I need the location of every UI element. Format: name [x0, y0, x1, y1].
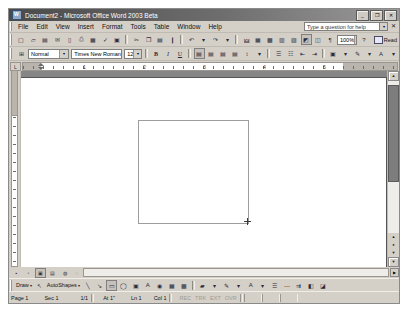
diagram-icon[interactable]: ◉: [154, 280, 165, 291]
menu-tools[interactable]: Tools: [127, 23, 150, 30]
paste-icon[interactable]: ▤: [155, 34, 166, 45]
permission-icon[interactable]: ▯: [64, 34, 75, 45]
document-map-icon[interactable]: ◩: [301, 34, 312, 45]
wordart-icon[interactable]: A: [142, 280, 153, 291]
status-indicator-rec[interactable]: REC: [173, 295, 193, 301]
styles-formatting-icon[interactable]: ⊞: [16, 48, 27, 59]
new-document-icon[interactable]: ▢: [16, 34, 27, 45]
columns-icon[interactable]: ▥: [277, 34, 288, 45]
font-size-select[interactable]: 12 ▾: [124, 49, 142, 59]
menu-window[interactable]: Window: [173, 23, 204, 30]
menu-insert[interactable]: Insert: [74, 23, 98, 30]
chevron-down-icon[interactable]: ▾: [354, 36, 357, 44]
insert-hyperlink-icon[interactable]: 🜲: [241, 34, 252, 45]
select-objects-icon[interactable]: ↖: [34, 280, 45, 291]
document-canvas[interactable]: [21, 71, 387, 267]
close-button[interactable]: ✕: [384, 10, 397, 21]
3d-style-icon[interactable]: ◪: [317, 280, 328, 291]
draw-menu-button[interactable]: Draw: [15, 282, 30, 288]
save-icon[interactable]: ▤: [40, 34, 51, 45]
show-formatting-marks-icon[interactable]: ◫: [313, 34, 324, 45]
status-indicator-trk[interactable]: TRK: [193, 295, 208, 301]
insert-excel-table-icon[interactable]: ▩: [265, 34, 276, 45]
decrease-indent-icon[interactable]: ⇤: [297, 48, 308, 59]
status-indicator-ovr[interactable]: OVR: [223, 295, 239, 301]
redo-icon[interactable]: ↷: [210, 34, 221, 45]
vertical-scroll-thumb[interactable]: [388, 85, 399, 182]
browse-previous-button[interactable]: ▲: [388, 233, 399, 241]
vertical-scroll-track[interactable]: [388, 81, 399, 233]
font-color-icon[interactable]: A: [245, 280, 256, 291]
browse-next-button[interactable]: ▼: [388, 249, 399, 257]
help-icon[interactable]: ?: [358, 34, 369, 45]
chevron-down-icon[interactable]: ▾: [133, 50, 142, 58]
line-spacing-dropdown-icon[interactable]: ▾: [254, 48, 265, 59]
hanging-indent-marker[interactable]: [38, 67, 44, 70]
drawn-rectangle-shape[interactable]: [138, 120, 250, 224]
reading-layout-view-button[interactable]: ◍: [59, 268, 70, 278]
thumbnail-view-button[interactable]: ◌: [71, 268, 82, 278]
menu-table[interactable]: Table: [150, 23, 174, 30]
line-color-icon[interactable]: ✎: [221, 280, 232, 291]
autoshapes-menu-button[interactable]: AutoShapes: [46, 282, 78, 288]
chevron-down-icon[interactable]: ▾: [30, 283, 32, 288]
cut-icon[interactable]: ✂: [131, 34, 142, 45]
open-icon[interactable]: ▱: [28, 34, 39, 45]
oval-icon[interactable]: ◯: [118, 280, 129, 291]
align-right-icon[interactable]: ▤: [218, 48, 229, 59]
status-indicator-ext[interactable]: EXT: [208, 295, 223, 301]
font-color-dropdown-icon[interactable]: ▾: [257, 280, 268, 291]
paragraph-mark-icon[interactable]: ¶: [325, 34, 336, 45]
highlight-dropdown-icon[interactable]: ▾: [364, 48, 375, 59]
title-bar[interactable]: Document2 - Microsoft Office Word 2003 B…: [9, 9, 399, 21]
menu-help[interactable]: Help: [204, 23, 225, 30]
justify-icon[interactable]: ▤: [230, 48, 241, 59]
copy-icon[interactable]: ❐: [143, 34, 154, 45]
formatting-toolbar-grip[interactable]: [10, 48, 14, 59]
font-color-icon[interactable]: A: [376, 48, 387, 59]
vertical-scrollbar[interactable]: ▲ ▲ ● ▼ ▼: [387, 71, 399, 267]
line-icon[interactable]: ╲: [82, 280, 93, 291]
minimize-button[interactable]: _: [356, 10, 369, 21]
drawing-toolbar-grip[interactable]: [10, 280, 14, 291]
restore-button[interactable]: ❐: [370, 10, 383, 21]
scroll-down-button[interactable]: ▼: [388, 257, 399, 267]
rectangle-icon[interactable]: ▭: [106, 280, 117, 291]
undo-dropdown-icon[interactable]: ▾: [198, 34, 209, 45]
close-icon[interactable]: ✕: [389, 22, 398, 31]
dash-style-icon[interactable]: ⋯: [281, 280, 292, 291]
shadow-style-icon[interactable]: ◧: [305, 280, 316, 291]
undo-icon[interactable]: ↶: [186, 34, 197, 45]
increase-indent-icon[interactable]: ⇥: [309, 48, 320, 59]
redo-dropdown-icon[interactable]: ▾: [222, 34, 233, 45]
font-select[interactable]: Times New Roman ▾: [71, 49, 122, 59]
numbered-list-icon[interactable]: ☰: [273, 48, 284, 59]
fill-color-icon[interactable]: ▰: [197, 280, 208, 291]
menu-view[interactable]: View: [52, 23, 74, 30]
chevron-down-icon[interactable]: ▾: [380, 22, 388, 31]
spelling-grammar-icon[interactable]: ✓: [100, 34, 111, 45]
horizontal-ruler[interactable]: 1 2 3 4 5: [22, 62, 398, 71]
bold-button[interactable]: B: [151, 48, 162, 59]
print-layout-view-button[interactable]: ▣: [35, 268, 46, 278]
research-icon[interactable]: ▣: [112, 34, 123, 45]
scroll-up-button[interactable]: ▲: [388, 71, 399, 81]
line-spacing-icon[interactable]: ↕: [242, 48, 253, 59]
chevron-down-icon[interactable]: ▾: [121, 50, 122, 58]
menu-edit[interactable]: Edit: [32, 23, 51, 30]
zoom-select[interactable]: 100% ▾: [337, 35, 357, 45]
text-box-icon[interactable]: ▣: [130, 280, 141, 291]
document-page[interactable]: [21, 77, 387, 267]
browse-select-object-button[interactable]: ●: [388, 241, 399, 249]
mail-recipient-icon[interactable]: ✉: [52, 34, 63, 45]
drawing-icon[interactable]: ▨: [289, 34, 300, 45]
normal-view-button[interactable]: ▪: [11, 268, 22, 278]
align-center-icon[interactable]: ▤: [206, 48, 217, 59]
outline-view-button[interactable]: ▤: [47, 268, 58, 278]
line-color-dropdown-icon[interactable]: ▾: [233, 280, 244, 291]
first-line-indent-marker[interactable]: [38, 63, 44, 66]
chevron-down-icon[interactable]: ▾: [59, 50, 68, 58]
picture-icon[interactable]: ▩: [178, 280, 189, 291]
menu-file[interactable]: File: [14, 23, 32, 30]
horizontal-scrollbar[interactable]: [83, 268, 389, 277]
